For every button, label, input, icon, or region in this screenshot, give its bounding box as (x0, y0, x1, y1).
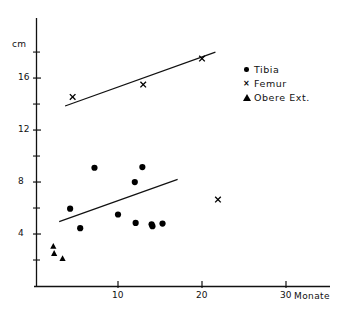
data-point-tibia (77, 225, 83, 231)
filled-circle-icon (241, 63, 254, 76)
data-markers (50, 56, 221, 261)
legend: Tibia × Femur Obere Ext. (241, 62, 310, 104)
trend-lines (59, 52, 215, 222)
data-point-tibia (115, 211, 121, 217)
data-point-tibia (133, 220, 139, 226)
data-point-obere-ext (51, 250, 57, 256)
y-axis-unit-label: cm (12, 39, 27, 49)
legend-item-tibia[interactable]: Tibia (241, 62, 310, 76)
data-point-obere-ext (50, 243, 56, 249)
scatter-plot-canvas (0, 0, 350, 311)
data-point-tibia (139, 164, 145, 170)
x-tick-label: 10 (112, 290, 123, 300)
data-point-tibia (149, 223, 155, 229)
axes (34, 18, 330, 287)
y-tick-label: 4 (18, 228, 24, 238)
legend-label: Tibia (254, 63, 279, 76)
legend-label: Femur (254, 77, 287, 90)
legend-item-obere-ext[interactable]: Obere Ext. (241, 90, 310, 104)
data-point-tibia (67, 206, 73, 212)
data-point-tibia (91, 165, 97, 171)
y-tick-label: 8 (18, 176, 24, 186)
x-tick-label: 20 (196, 290, 207, 300)
data-point-femur (140, 82, 146, 88)
x-axis-unit-label: Monate (294, 291, 330, 301)
y-tick-label: 12 (18, 124, 29, 134)
Femur-trend (65, 52, 215, 106)
data-point-tibia (159, 221, 165, 227)
data-point-femur (70, 94, 76, 100)
x-tick-label: 30 (280, 290, 291, 300)
y-tick-label: 16 (18, 72, 29, 82)
legend-item-femur[interactable]: × Femur (241, 76, 310, 90)
x-marker-icon: × (241, 77, 254, 90)
filled-triangle-icon (241, 91, 254, 104)
data-point-obere-ext (59, 255, 65, 261)
legend-label: Obere Ext. (254, 91, 310, 104)
data-point-tibia (132, 179, 138, 185)
data-point-femur (215, 197, 221, 203)
